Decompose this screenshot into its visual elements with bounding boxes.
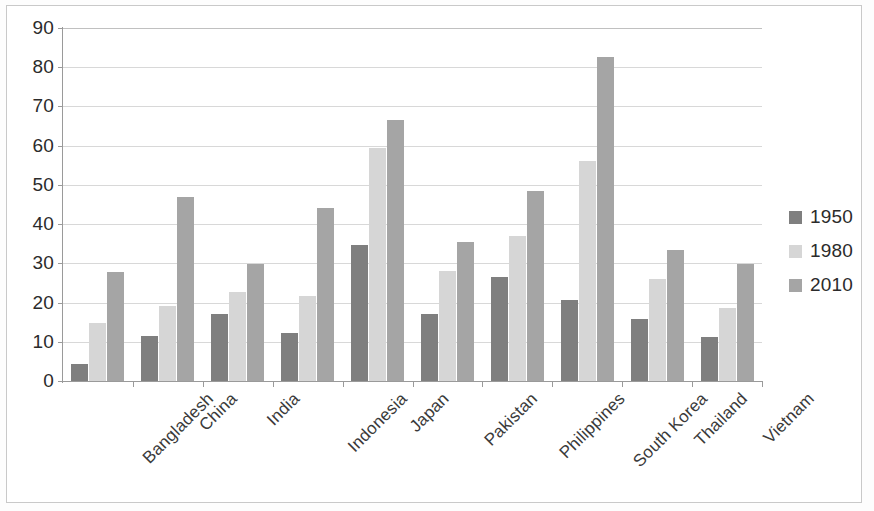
- bar: [71, 364, 88, 381]
- bar: [211, 314, 228, 381]
- bar: [701, 337, 718, 381]
- bar-cluster: [491, 28, 544, 381]
- bar: [177, 197, 194, 381]
- x-axis-tick: [762, 381, 763, 387]
- y-axis-tick-label: 10: [32, 331, 54, 353]
- x-axis-category-label: Vietnam: [760, 389, 819, 448]
- legend-item: 2010: [789, 268, 853, 302]
- bar: [299, 296, 316, 381]
- chart-legend: 195019802010: [789, 200, 853, 302]
- chart-screenshot: 0102030405060708090 BangladeshChinaIndia…: [0, 0, 874, 511]
- bar-cluster: [631, 28, 684, 381]
- bar-cluster: [701, 28, 754, 381]
- x-axis-tick: [622, 381, 623, 387]
- y-axis-tick: [58, 381, 63, 382]
- y-axis-tick-label: 60: [32, 135, 54, 157]
- bar: [229, 292, 246, 381]
- y-axis-tick: [58, 263, 63, 264]
- x-axis-category-label: Japan: [405, 389, 453, 437]
- y-axis-tick: [58, 185, 63, 186]
- legend-item: 1950: [789, 200, 853, 234]
- bar-cluster: [141, 28, 194, 381]
- bar: [351, 245, 368, 381]
- bar: [649, 279, 666, 381]
- bar-chart: 0102030405060708090 BangladeshChinaIndia…: [0, 0, 874, 511]
- x-axis-tick: [413, 381, 414, 387]
- y-axis-tick: [58, 342, 63, 343]
- bar: [369, 148, 386, 381]
- x-axis-tick: [133, 381, 134, 387]
- bar: [107, 272, 124, 381]
- plot-area: 0102030405060708090: [63, 28, 762, 381]
- bar: [141, 336, 158, 381]
- bar: [421, 314, 438, 381]
- bar: [509, 236, 526, 382]
- y-axis-tick-label: 20: [32, 292, 54, 314]
- bar: [719, 308, 736, 381]
- bar: [597, 57, 614, 381]
- y-axis-tick: [58, 303, 63, 304]
- bar: [457, 242, 474, 381]
- legend-label: 2010: [810, 274, 853, 296]
- legend-color-swatch: [789, 279, 802, 292]
- y-axis-tick: [58, 28, 63, 29]
- legend-color-swatch: [789, 245, 802, 258]
- x-axis-category-label: Pakistan: [481, 389, 542, 450]
- bar: [89, 323, 106, 381]
- x-axis-category-label: Indonesia: [344, 389, 412, 457]
- y-axis-tick-label: 30: [32, 252, 54, 274]
- legend-item: 1980: [789, 234, 853, 268]
- y-axis-tick: [58, 106, 63, 107]
- bar: [439, 271, 456, 381]
- x-axis-category-label: India: [263, 389, 304, 430]
- legend-label: 1950: [810, 206, 853, 228]
- y-axis-tick-label: 40: [32, 213, 54, 235]
- bar-cluster: [421, 28, 474, 381]
- y-axis-tick-label: 0: [43, 370, 54, 392]
- bar: [631, 319, 648, 381]
- bar: [281, 333, 298, 381]
- bar-cluster: [281, 28, 334, 381]
- legend-color-swatch: [789, 211, 802, 224]
- x-axis-tick: [273, 381, 274, 387]
- bar: [247, 264, 264, 381]
- y-axis-tick-label: 70: [32, 95, 54, 117]
- x-axis-tick: [552, 381, 553, 387]
- bar-cluster: [211, 28, 264, 381]
- y-axis-tick-label: 80: [32, 56, 54, 78]
- y-axis-tick-label: 90: [32, 17, 54, 39]
- y-axis-tick: [58, 146, 63, 147]
- bar-cluster: [561, 28, 614, 381]
- bar: [561, 300, 578, 381]
- bar: [159, 306, 176, 381]
- x-axis-tick: [203, 381, 204, 387]
- x-axis-tick: [692, 381, 693, 387]
- legend-label: 1980: [810, 240, 853, 262]
- bar: [737, 264, 754, 381]
- x-axis-category-label: Philippines: [556, 389, 630, 463]
- bar: [491, 277, 508, 381]
- y-axis-tick: [58, 224, 63, 225]
- bar: [317, 208, 334, 381]
- bar: [387, 120, 404, 381]
- y-axis-tick: [58, 67, 63, 68]
- y-axis-tick-label: 50: [32, 174, 54, 196]
- bar: [667, 250, 684, 381]
- x-axis-tick: [482, 381, 483, 387]
- bar: [579, 161, 596, 381]
- bar-cluster: [351, 28, 404, 381]
- bar: [527, 191, 544, 381]
- bar-cluster: [71, 28, 124, 381]
- x-axis-tick: [343, 381, 344, 387]
